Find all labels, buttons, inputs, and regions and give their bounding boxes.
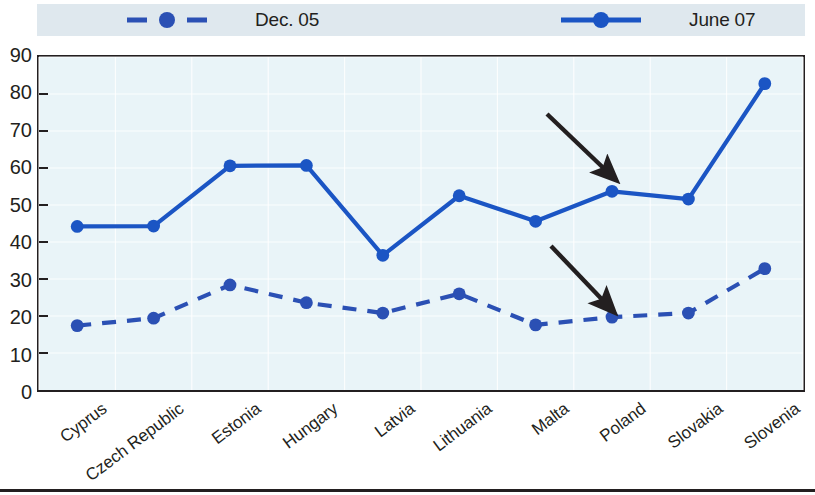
legend-item-dec-05: Dec. 05	[125, 4, 319, 36]
x-tick-slovakia: Slovakia	[664, 399, 727, 453]
plot-area	[37, 55, 805, 392]
y-tick-10: 10	[0, 345, 32, 365]
chart-figure: Dec. 05 June 07 90 80 70 60 50 40 30 20 …	[0, 0, 815, 495]
legend-label-june-07: June 07	[689, 9, 755, 31]
x-tick-latvia: Latvia	[371, 399, 419, 442]
x-tick-slovenia: Slovenia	[741, 399, 804, 454]
x-tick-poland: Poland	[596, 399, 650, 446]
y-tick-90: 90	[0, 45, 32, 65]
x-tick-estonia: Estonia	[208, 399, 265, 449]
y-tick-30: 30	[0, 270, 32, 290]
legend-item-june-07: June 07	[559, 4, 755, 36]
y-tick-20: 20	[0, 307, 32, 327]
y-tick-70: 70	[0, 120, 32, 140]
x-tick-malta: Malta	[528, 399, 573, 440]
chart-legend: Dec. 05 June 07	[37, 4, 805, 36]
y-tick-60: 60	[0, 157, 32, 177]
solid-line-marker-icon	[559, 7, 677, 33]
y-tick-50: 50	[0, 195, 32, 215]
x-tick-hungary: Hungary	[279, 399, 342, 453]
y-tick-40: 40	[0, 232, 32, 252]
bottom-rule	[0, 489, 815, 492]
y-tick-0: 0	[0, 382, 32, 402]
dashed-line-marker-icon	[125, 7, 243, 33]
x-tick-lithuania: Lithuania	[430, 399, 496, 456]
x-tick-cyprus: Cyprus	[56, 399, 111, 447]
legend-label-dec-05: Dec. 05	[255, 9, 319, 31]
y-tick-80: 80	[0, 82, 32, 102]
